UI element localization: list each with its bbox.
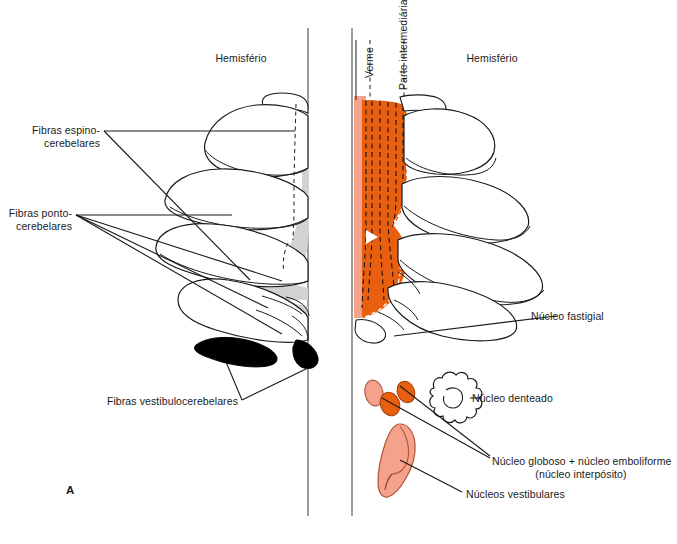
spinocerebellar-fibers-label-line1: Fibras espino- xyxy=(0,124,100,137)
interposed-nucleus-label-line1: Núcleo globoso + núcleo emboliforme xyxy=(492,455,671,468)
right-folium-lower xyxy=(355,319,386,343)
fastigial-nucleus-label: Núcleo fastigial xyxy=(531,310,604,323)
left-nodulus-black xyxy=(293,340,318,369)
vermis-label: Verme xyxy=(363,47,376,78)
dentate-nucleus-label: Núcleo denteado xyxy=(472,392,553,405)
left-folium-2 xyxy=(165,169,308,230)
leader-vestibulocerebellar-2 xyxy=(242,368,308,400)
right-folium-2 xyxy=(402,177,529,244)
intermediate-part-label: Parte intermediária xyxy=(397,0,410,90)
spinocerebellar-fibers-label-line2: cerebelares xyxy=(0,137,100,150)
right-hemisphere-label: Hemisfério xyxy=(447,52,537,65)
left-panel-group xyxy=(76,28,318,516)
left-folium-1 xyxy=(205,105,308,178)
vestibulocerebellar-fibers-label: Fibras vestibulocerebelares xyxy=(100,395,238,408)
right-folium-1 xyxy=(404,109,495,174)
left-folium-3 xyxy=(156,224,308,287)
left-flocculus-black xyxy=(194,337,277,366)
cerebellum-figure: Hemisfério Hemisfério Verme Parte interm… xyxy=(0,0,677,544)
panel-letter: A xyxy=(66,484,74,497)
interposed-nucleus-label-line2: (núcleo interpósito) xyxy=(492,468,670,481)
right-panel-group xyxy=(352,28,556,516)
vestibular-nuclei-label: Núcleos vestibulares xyxy=(466,488,565,501)
left-hemisphere-label: Hemisfério xyxy=(196,52,286,65)
vestibular-nuclei xyxy=(378,424,415,497)
pontocerebellar-fibers-label-line1: Fibras ponto- xyxy=(0,207,72,220)
pontocerebellar-fibers-label-line2: cerebelares xyxy=(0,220,72,233)
leader-vestibular xyxy=(400,460,462,492)
